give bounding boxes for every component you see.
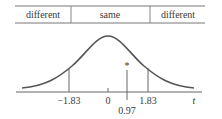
axis-variable-label: t bbox=[193, 95, 196, 106]
tick-label-neg: −1.83 bbox=[57, 95, 80, 106]
tick-label-zero: 0 bbox=[106, 95, 111, 106]
region-middle-label: same bbox=[100, 9, 121, 20]
region-right-label: different bbox=[161, 9, 195, 20]
observed-marker: * bbox=[125, 60, 130, 71]
tick-label-pos: 1.83 bbox=[139, 95, 157, 106]
region-left-label: different bbox=[26, 9, 60, 20]
density-curve bbox=[22, 36, 194, 88]
region-header: different same different bbox=[15, 6, 205, 23]
observed-label: 0.97 bbox=[118, 105, 136, 116]
t-distribution-diagram: different same different * −1.83 0 1.83 … bbox=[0, 0, 222, 119]
